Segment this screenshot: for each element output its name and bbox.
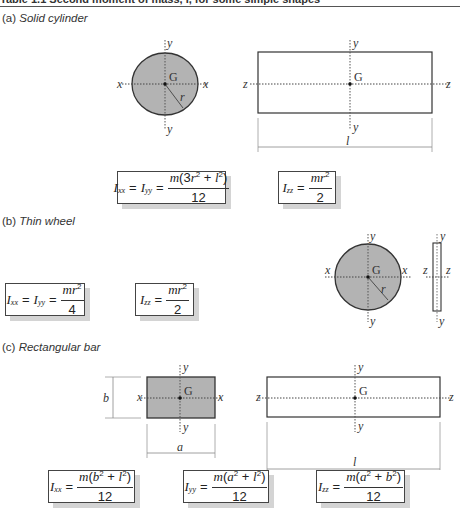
numerator: m(a2 + l2) <box>212 469 268 487</box>
equals-sign: = <box>155 292 163 307</box>
fraction: mr2 2 <box>166 282 189 316</box>
denominator: 2 <box>174 301 181 317</box>
formula-box-thin-wheel-ixx-iyy: Ixx = Iyy = mr2 4 <box>5 283 85 316</box>
axis-label-x: x <box>401 263 408 277</box>
length-label: l <box>346 134 350 148</box>
denominator: 12 <box>191 189 205 205</box>
axis-label-y: y <box>439 229 446 243</box>
radius-label: r <box>180 90 185 104</box>
fraction: m(3r2 + l2) 12 <box>168 170 230 204</box>
formula-box-solid-cylinder-ixx-iyy: Ixx = Iyy = m(3r2 + l2) 12 <box>117 171 226 204</box>
equals-sign: = <box>129 180 137 195</box>
centroid-label: G <box>184 384 193 398</box>
formula-box-rectangular-bar-iyy: Iyy = m(a2 + l2) 12 <box>183 470 269 503</box>
axis-label-y: y <box>166 36 173 50</box>
axis-label-y: y <box>352 36 359 50</box>
equals-sign: = <box>297 180 305 195</box>
subscript: zz <box>287 186 293 195</box>
axis-label-x: x <box>136 390 143 404</box>
subscript: yy <box>145 186 152 195</box>
numerator: mr2 <box>166 282 189 300</box>
equals-sign: = <box>200 479 208 494</box>
fraction: m(b2 + l2) 12 <box>77 469 133 503</box>
subscript: zz <box>322 485 328 494</box>
radius-label: r <box>381 282 386 296</box>
formula-box-thin-wheel-izz: Izz = mr2 2 <box>135 283 194 316</box>
numerator: m(a2 + b2) <box>344 469 403 487</box>
width-label-b: b <box>103 391 109 405</box>
axis-label-z: z <box>422 263 428 277</box>
fraction: m(a2 + l2) 12 <box>212 469 268 503</box>
equals-sign: = <box>156 180 164 195</box>
formula-box-rectangular-bar-ixx: Ixx = m(b2 + l2) 12 <box>48 470 135 503</box>
axis-label-y: y <box>369 229 376 243</box>
axis-label-y: y <box>166 122 173 136</box>
axis-label-z: z <box>445 77 451 91</box>
denominator: 4 <box>68 301 75 317</box>
axis-label-z: z <box>448 390 454 404</box>
denominator: 12 <box>232 488 246 504</box>
axis-label-y: y <box>182 360 189 374</box>
equals-sign: = <box>333 479 341 494</box>
subscript: yy <box>38 298 45 307</box>
length-label: l <box>353 455 357 469</box>
thin-wheel-face-view: y y x x G r <box>324 229 411 328</box>
subscript: xx <box>118 186 125 195</box>
centroid-label: G <box>354 70 363 84</box>
numerator: m(b2 + l2) <box>77 469 133 487</box>
equals-sign: = <box>65 479 73 494</box>
axis-label-x: x <box>217 390 224 404</box>
width-label-a: a <box>177 440 183 454</box>
solid-cylinder-side-view: y y z z G l <box>242 36 451 152</box>
numerator: m(3r2 + l2) <box>168 170 230 188</box>
numerator: mr2 <box>309 170 332 188</box>
fraction: mr2 2 <box>309 170 332 204</box>
axis-label-x: x <box>324 263 331 277</box>
equals-sign: = <box>49 292 57 307</box>
subscript: zz <box>144 298 150 307</box>
denominator: 12 <box>366 488 380 504</box>
formula-box-solid-cylinder-izz: Izz = mr2 2 <box>278 171 336 204</box>
rectangular-bar-end-view: y y x x G b a <box>103 360 224 458</box>
subscript: yy <box>189 485 196 494</box>
fraction: m(a2 + b2) 12 <box>344 469 403 503</box>
axis-label-z: z <box>445 263 451 277</box>
axis-label-y: y <box>182 420 189 434</box>
numerator: mr2 <box>61 282 84 300</box>
centroid-label: G <box>169 70 178 84</box>
fraction: mr2 4 <box>61 282 84 316</box>
axis-label-z: z <box>242 77 248 91</box>
axis-label-y: y <box>438 314 445 328</box>
axis-label-y: y <box>357 360 364 374</box>
formula-box-rectangular-bar-izz: Izz = m(a2 + b2) 12 <box>316 470 405 503</box>
axis-label-x: x <box>116 77 123 91</box>
axis-label-y: y <box>369 314 376 328</box>
centroid-label: G <box>372 263 381 277</box>
subscript: xx <box>11 298 18 307</box>
rectangular-bar-side-view: y y z z G l <box>255 360 454 470</box>
axis-label-y: y <box>352 120 359 134</box>
denominator: 12 <box>98 488 112 504</box>
subscript: xx <box>54 485 61 494</box>
thin-wheel-side-view: y y z z <box>422 229 451 328</box>
denominator: 2 <box>316 189 323 205</box>
centroid-label: G <box>359 384 368 398</box>
axis-label-z: z <box>255 390 261 404</box>
equals-sign: = <box>22 292 30 307</box>
axis-label-x: x <box>202 77 209 91</box>
diagrams: y y x x G r y y z z G l y y x x G r <box>0 0 460 525</box>
solid-cylinder-end-view: y y x x G r <box>116 36 209 136</box>
axis-label-y: y <box>357 419 364 433</box>
